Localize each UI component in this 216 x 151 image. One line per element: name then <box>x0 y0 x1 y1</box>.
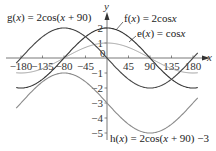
y-tick-label: −1 <box>91 67 103 79</box>
e-leader-line <box>129 36 136 42</box>
trig-graph: x y −180−135−80−4545901351800 21−1−2−3−4… <box>0 0 216 151</box>
y-ticks: 21−1−2−3−4−5 <box>91 22 107 139</box>
y-axis-name: y <box>103 0 109 12</box>
x-tick-label: 90 <box>145 60 157 72</box>
x-tick-label: 45 <box>123 60 135 72</box>
label-e: e(x) = cosx <box>137 27 185 40</box>
label-h: h(x) = 2cos(x + 90) −3 <box>110 132 209 145</box>
x-tick-label: 180 <box>185 60 202 72</box>
f-leader-line <box>116 22 123 30</box>
x-ticks: −180−135−80−4545901351800 <box>10 47 202 72</box>
label-g: g(x) = 2cos(x + 90) <box>7 11 92 24</box>
y-tick-label: −5 <box>91 127 103 139</box>
label-f: f(x) = 2cosx <box>124 12 177 25</box>
y-tick-label: −3 <box>91 97 103 109</box>
x-tick-label: −135 <box>31 60 54 72</box>
x-tick-label: −80 <box>55 60 73 72</box>
y-axis <box>105 12 110 140</box>
x-axis-name: x <box>206 51 212 63</box>
x-tick-label: −180 <box>10 60 33 72</box>
y-tick-label: −4 <box>91 112 103 124</box>
y-axis-arrow-icon <box>105 12 110 20</box>
